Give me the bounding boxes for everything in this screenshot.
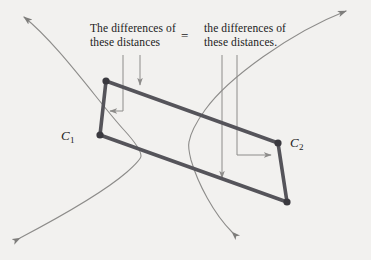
- left-annotation-line-2: these distances: [90, 36, 176, 50]
- focus-label-c2: C2: [290, 135, 304, 152]
- leader-lines-right: [222, 55, 271, 178]
- focus-label-c2-subscript: 2: [299, 142, 304, 152]
- focus-label-c2-letter: C: [290, 135, 299, 150]
- focus-label-c1: C1: [61, 128, 75, 145]
- right-annotation-text: the differences of these distances.: [204, 22, 286, 49]
- focus-label-c1-letter: C: [61, 128, 70, 143]
- vertex-c2-dot: [274, 139, 281, 146]
- right-annotation-line-1: the differences of: [204, 22, 286, 36]
- focus-label-c1-subscript: 1: [70, 135, 75, 145]
- right-annotation-line-2: these distances.: [204, 36, 286, 50]
- hyperbola-left-branch: [20, 17, 141, 238]
- left-annotation-line-1: The differences of: [90, 22, 176, 36]
- vertex-top-left-dot: [102, 77, 109, 84]
- hyperbola-diagram: The differences of these distances = the…: [0, 0, 371, 260]
- quadrilateral-vertices: [96, 77, 290, 205]
- vertex-c1-dot: [96, 131, 103, 138]
- equals-sign: =: [181, 29, 188, 43]
- left-annotation-text: The differences of these distances: [90, 22, 176, 49]
- quadrilateral: [100, 81, 287, 202]
- vertex-bottom-right-dot: [283, 198, 290, 205]
